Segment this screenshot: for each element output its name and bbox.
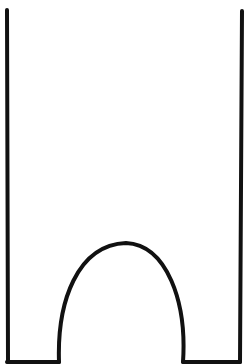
line-drawing <box>0 0 245 364</box>
right-wall-line <box>240 11 242 362</box>
arch-curve <box>59 243 184 362</box>
left-wall-line <box>7 10 8 362</box>
diagram-canvas <box>0 0 245 364</box>
